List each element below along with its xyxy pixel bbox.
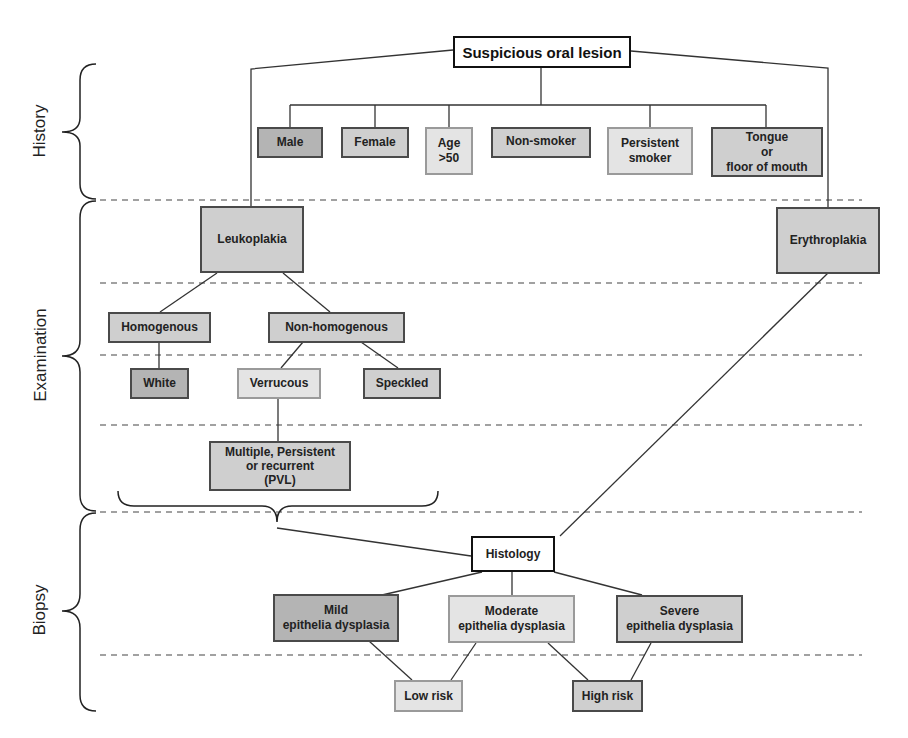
node-male: Male bbox=[257, 127, 323, 158]
node-speckled: Speckled bbox=[363, 368, 441, 399]
node-severe-dysplasia: Severe epithelia dysplasia bbox=[616, 595, 743, 643]
node-leukoplakia: Leukoplakia bbox=[200, 206, 304, 273]
node-histology: Histology bbox=[471, 536, 555, 572]
node-non-homogenous: Non-homogenous bbox=[268, 312, 405, 343]
node-erythroplakia: Erythroplakia bbox=[776, 207, 880, 274]
examination-brace-icon bbox=[62, 201, 96, 511]
stage-label-examination: Examination bbox=[31, 305, 51, 405]
node-moderate-dysplasia: Moderate epithelia dysplasia bbox=[448, 595, 575, 643]
biopsy-brace-icon bbox=[62, 513, 96, 711]
node-low-risk: Low risk bbox=[394, 680, 463, 712]
node-mild-dysplasia: Mild epithelia dysplasia bbox=[273, 594, 399, 642]
node-non-smoker: Non-smoker bbox=[491, 127, 591, 158]
node-age-over-50: Age >50 bbox=[425, 127, 473, 175]
node-pvl: Multiple, Persistent or recurrent (PVL) bbox=[209, 441, 351, 491]
leukoplakia-subtree-brace-icon bbox=[118, 491, 438, 522]
node-suspicious-oral-lesion: Suspicious oral lesion bbox=[453, 36, 631, 68]
stage-label-history: History bbox=[30, 101, 50, 161]
node-high-risk: High risk bbox=[572, 680, 643, 712]
node-female: Female bbox=[341, 127, 409, 158]
node-homogenous: Homogenous bbox=[108, 312, 211, 343]
node-verrucous: Verrucous bbox=[237, 368, 321, 399]
node-tongue-floor-of-mouth: Tongue or floor of mouth bbox=[711, 127, 823, 177]
node-persistent-smoker: Persistent smoker bbox=[607, 127, 693, 175]
node-white: White bbox=[130, 368, 189, 399]
stage-label-biopsy: Biopsy bbox=[30, 582, 50, 638]
history-brace-icon bbox=[62, 64, 96, 199]
